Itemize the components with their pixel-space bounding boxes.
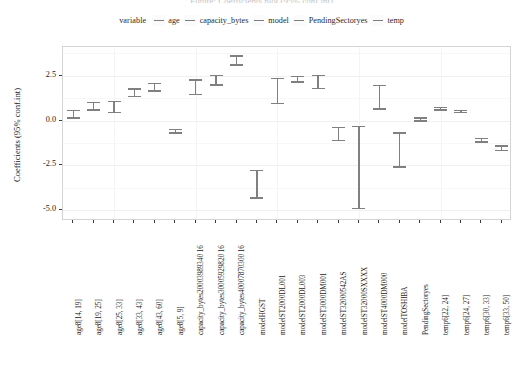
error-bar-cap-lower: [169, 132, 182, 134]
error-bar-cap-lower: [67, 117, 80, 119]
legend-item-pendingsectoryes[interactable]: PendingSectoryes: [293, 15, 368, 26]
error-bar-cap-lower: [189, 94, 202, 96]
error-bar-line: [358, 126, 359, 209]
error-bar-cap-upper: [373, 85, 386, 87]
x-axis-tick-mark: [276, 220, 277, 223]
error-bar: [186, 79, 206, 95]
x-axis-tick-label: temp6[33, 50]: [503, 295, 511, 335]
legend-label: model: [268, 16, 288, 25]
gridline-minor: [63, 143, 510, 144]
x-axis-tick-label: capacity_bytes40007870300 16: [238, 245, 246, 335]
line-key-icon: [184, 15, 197, 26]
x-axis-tick-label: temp6[30, 33]: [483, 295, 491, 335]
error-bar: [206, 75, 226, 86]
error-bar-cap-upper: [475, 138, 488, 140]
gridline-major: [63, 165, 510, 166]
error-bar-cap-lower: [373, 108, 386, 110]
legend-title: variable: [119, 16, 146, 25]
line-key-icon: [252, 15, 265, 26]
error-bar: [226, 55, 246, 66]
x-axis-tick-mark: [236, 220, 237, 223]
legend-item-model[interactable]: model: [252, 15, 288, 26]
legend-item-capacity_bytes[interactable]: capacity_bytes: [184, 15, 249, 26]
x-axis-tick-mark: [338, 220, 339, 223]
error-bar-cap-lower: [210, 84, 223, 86]
chart-legend: variable agecapacity_bytesmodelPendingSe…: [0, 15, 523, 26]
error-bar-line: [256, 170, 257, 199]
error-bar: [308, 75, 328, 89]
error-bar-cap-upper: [108, 101, 121, 103]
x-axis-tick-label: modelST4000DM000: [381, 273, 389, 335]
x-axis-tick-label: modelHGST: [259, 299, 267, 335]
legend-label: age: [168, 16, 179, 25]
gridline-vertical: [441, 47, 442, 219]
chart-root: Figure: Coefficients plot (95% conf.int)…: [0, 0, 523, 365]
x-axis-tick-mark: [174, 220, 175, 223]
y-axis-title: Coefficients (95% conf.int): [12, 55, 22, 215]
x-axis-tick-mark: [113, 220, 114, 223]
x-axis-tick-mark: [215, 220, 216, 223]
y-axis-tick-mark: [59, 120, 62, 121]
error-bar-cap-lower: [291, 81, 304, 83]
gridline-vertical: [114, 47, 115, 219]
cut-off-title: Figure: Coefficients plot (95% conf.int): [0, 0, 523, 3]
error-bar-cap-upper: [128, 88, 141, 90]
error-bar-cap-lower: [230, 64, 243, 66]
y-axis-tick-mark: [59, 209, 62, 210]
x-axis-tick-mark: [72, 220, 73, 223]
error-bar-cap-upper: [87, 102, 100, 104]
x-axis-tick-label: capacity_bytes30005929820 16: [218, 245, 226, 335]
error-bar-cap-upper: [210, 75, 223, 77]
x-axis-tick-label: PendingSectoryes: [422, 284, 430, 335]
x-axis-tick-mark: [297, 220, 298, 223]
legend-label: temp: [387, 16, 403, 25]
x-axis-tick-mark: [501, 220, 502, 223]
error-bar-cap-lower: [312, 88, 325, 90]
x-axis-tick-label: modelST32000SXXXX: [361, 267, 369, 335]
x-axis-tick-mark: [419, 220, 420, 223]
error-bar-cap-lower: [108, 112, 121, 114]
error-bar-cap-upper: [250, 170, 263, 172]
gridline-vertical: [277, 47, 278, 219]
y-axis-tick-label: 2.5: [16, 70, 56, 79]
error-bar-cap-upper: [312, 75, 325, 77]
error-bar-cap-lower: [393, 166, 406, 168]
error-bar-cap-lower: [332, 140, 345, 142]
line-key-icon: [293, 15, 306, 26]
gridline-minor: [63, 188, 510, 189]
error-bar-cap-upper: [230, 55, 243, 57]
x-axis-tick-label: age8[33, 43]: [136, 299, 144, 335]
error-bar: [492, 145, 511, 151]
error-bar: [288, 76, 308, 83]
error-bar-cap-lower: [434, 109, 447, 111]
legend-item-temp[interactable]: temp: [371, 15, 403, 26]
error-bar-cap-lower: [87, 109, 100, 111]
error-bar-cap-lower: [250, 197, 263, 199]
error-bar-cap-upper: [332, 127, 345, 129]
x-axis-tick-mark: [460, 220, 461, 223]
x-axis-tick-label: modelST2000DL003: [299, 275, 307, 335]
gridline-major: [63, 210, 510, 211]
y-axis-tick-mark: [59, 75, 62, 76]
error-bar: [84, 102, 104, 111]
error-bar: [247, 170, 267, 199]
x-axis-tick-mark: [93, 220, 94, 223]
error-bar-cap-upper: [414, 117, 427, 119]
error-bar-cap-upper: [393, 132, 406, 134]
legend-label: capacity_bytes: [200, 16, 249, 25]
error-bar-cap-lower: [475, 141, 488, 143]
error-bar-cap-lower: [352, 208, 365, 210]
x-axis-tick-label: capacity_bytes20003989340 16: [197, 245, 205, 335]
x-axis-tick-mark: [256, 220, 257, 223]
x-axis-tick-label: age8[25, 33]: [116, 299, 124, 335]
error-bar-cap-lower: [414, 120, 427, 122]
x-axis-tick-mark: [195, 220, 196, 223]
line-key-icon: [371, 15, 384, 26]
error-bar: [63, 110, 83, 119]
x-axis-tick-label: age8[43, 60]: [156, 299, 164, 335]
x-axis-tick-label: temp6[24, 27]: [463, 295, 471, 335]
error-bar-cap-upper: [434, 107, 447, 109]
error-bar-cap-upper: [271, 78, 284, 80]
error-bar-cap-upper: [67, 110, 80, 112]
legend-item-age[interactable]: age: [152, 15, 179, 26]
